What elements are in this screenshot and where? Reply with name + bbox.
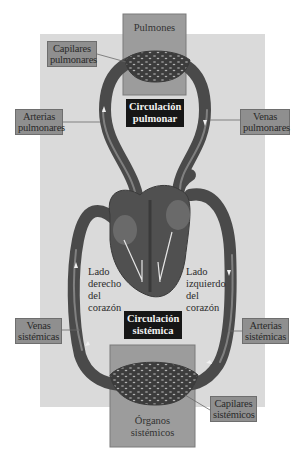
label-line: izquierdo — [186, 278, 226, 290]
label-line: corazón — [88, 302, 121, 314]
systemic-title-line1: Circulación — [127, 313, 179, 325]
pulmonary-title-line1: Circulación — [129, 101, 181, 113]
label-line: pulmonares — [18, 122, 60, 133]
pulmonary-capillaries-label: Capilares pulmonares — [47, 41, 97, 67]
label-line: del — [88, 290, 121, 302]
label-line: Lado — [186, 266, 226, 278]
label-line: sistémicos — [213, 409, 254, 420]
label-line: pulmonares — [243, 122, 287, 133]
label-line: Lado — [88, 266, 121, 278]
label-line: corazón — [186, 302, 226, 314]
label-line: Venas — [243, 111, 287, 122]
circulation-illustration — [0, 0, 304, 462]
label-line: Venas — [18, 320, 59, 331]
label-line: sistémicas — [245, 331, 286, 342]
pulmonary-title-line2: pulmonar — [129, 113, 181, 125]
label-line: sistémicas — [18, 331, 59, 342]
pulmonary-circulation-title: Circulación pulmonar — [126, 99, 184, 127]
lungs-organ: Pulmones — [123, 14, 186, 34]
pulmonary-veins-label: Venas pulmonares — [240, 109, 290, 135]
circulatory-diagram: Pulmones Órganos sistémicos Circulación … — [0, 0, 304, 462]
label-line: pulmonares — [50, 54, 94, 65]
label-line: Capilares — [213, 398, 254, 409]
systemic-organs-line1: Órganos — [110, 415, 195, 427]
systemic-veins-label: Venas sistémicas — [15, 318, 62, 344]
label-line: del — [186, 290, 226, 302]
right-heart-side-label: Lado derecho del corazón — [88, 266, 121, 314]
systemic-organs-line2: sistémicos — [110, 427, 195, 439]
left-heart-side-label: Lado izquierdo del corazón — [186, 266, 226, 314]
label-line: derecho — [88, 278, 121, 290]
lungs-label: Pulmones — [134, 22, 175, 33]
pulmonary-arteries-label: Arterias pulmonares — [15, 109, 63, 135]
label-line: Arterias — [18, 111, 60, 122]
label-line: Capilares — [50, 43, 94, 54]
systemic-arteries-label: Arterias sistémicas — [242, 318, 289, 344]
systemic-organs: Órganos sistémicos — [110, 415, 195, 445]
systemic-title-line2: sistémica — [127, 325, 179, 337]
systemic-capillaries-label: Capilares sistémicos — [210, 396, 257, 422]
label-line: Arterias — [245, 320, 286, 331]
systemic-circulation-title: Circulación sistémica — [124, 311, 182, 339]
